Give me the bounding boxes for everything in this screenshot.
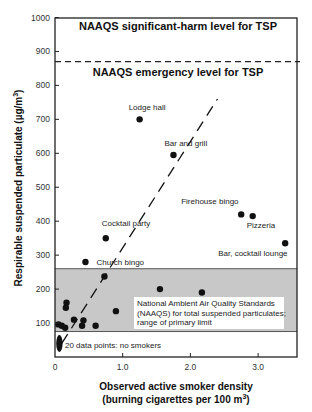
point-label: Pizzeria (247, 221, 276, 230)
band-label-line: National Ambient Air Quality Standards (137, 299, 275, 308)
y-tick-label: 700 (36, 114, 50, 124)
data-point (136, 116, 142, 122)
reference-lines: NAAQS significant-harm level for TSPNAAQ… (55, 20, 300, 78)
data-point (157, 286, 163, 292)
point-label: Church bingo (96, 258, 144, 267)
x-tick-label: 3.0 (252, 362, 264, 372)
point-label: Lodge hall (129, 103, 166, 112)
band-label-line: (NAAQS) for total suspended particulates… (137, 309, 286, 318)
x-axis-subtitle: (burning cigarettes per 100 m3) (102, 393, 249, 405)
y-tick-label: 400 (36, 216, 50, 226)
point-label: Firehouse bingo (181, 197, 239, 206)
x-tick-label: 1.0 (117, 362, 129, 372)
data-point (238, 211, 244, 217)
y-tick-label: 600 (36, 148, 50, 158)
significant-harm-label: NAAQS significant-harm level for TSP (79, 20, 277, 32)
y-tick-label: 300 (36, 250, 50, 260)
data-point (63, 305, 69, 311)
x-tick-label: 0 (53, 362, 58, 372)
x-axis-title: Observed active smoker density (99, 381, 253, 392)
point-label: Cocktail party (102, 219, 150, 228)
point-label: Bar, cocktail lounge (218, 249, 288, 258)
y-tick-label: 1000 (31, 13, 50, 23)
y-tick-label: 900 (36, 46, 50, 56)
y-tick-label: 100 (36, 318, 50, 328)
naaqs-band: National Ambient Air Quality Standards(N… (55, 269, 297, 332)
y-tick-label: 200 (36, 284, 50, 294)
data-point (82, 259, 88, 265)
data-point (113, 308, 119, 314)
band-label-line: range of primary limit (137, 318, 212, 327)
y-tick-label: 500 (36, 182, 50, 192)
data-point (249, 213, 255, 219)
y-axis-title: Respirable suspended particulate (µg/m3) (12, 90, 24, 287)
no-smokers-cluster (56, 335, 62, 352)
data-point (170, 152, 176, 158)
data-point (80, 317, 86, 323)
data-point (101, 273, 107, 279)
data-point (62, 325, 68, 331)
data-point (103, 235, 109, 241)
data-point (282, 240, 288, 246)
data-point (71, 316, 77, 322)
emergency-level-label: NAAQS emergency level for TSP (93, 66, 264, 78)
scatter-chart: National Ambient Air Quality Standards(N… (0, 0, 312, 412)
point-label: Bar and grill (164, 139, 207, 148)
data-point (199, 289, 205, 295)
y-tick-label: 800 (36, 80, 50, 90)
x-tick-label: 2.0 (184, 362, 196, 372)
data-point (92, 323, 98, 329)
no-smokers-label: 20 data points: no smokers (65, 341, 161, 350)
data-point (79, 323, 85, 329)
